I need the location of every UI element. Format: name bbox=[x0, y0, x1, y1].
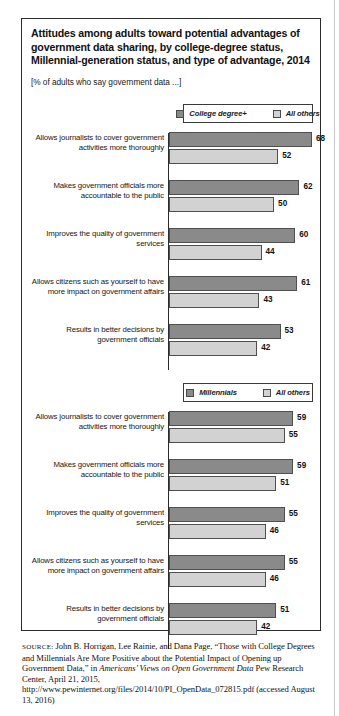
bar-series1 bbox=[169, 603, 276, 618]
figure-root: Attitudes among adults toward potential … bbox=[0, 0, 339, 716]
bar-value-series1: 68 bbox=[316, 134, 325, 143]
bar-value-series1: 55 bbox=[289, 509, 298, 518]
bar-pair: 53 42 bbox=[169, 324, 320, 360]
bar-value-series1: 53 bbox=[285, 326, 294, 335]
bar-value-series2: 51 bbox=[280, 478, 289, 487]
bar-value-series1: 60 bbox=[299, 230, 308, 239]
bar-value-series2: 44 bbox=[266, 247, 275, 256]
bar-value-series2: 46 bbox=[270, 574, 279, 583]
bar-row-series1: 55 bbox=[169, 555, 320, 570]
bar-row-series2: 51 bbox=[169, 476, 320, 491]
legend-item-millennials: Millennials bbox=[186, 388, 237, 397]
plot-area-1: Allows journalists to cover government a… bbox=[22, 131, 320, 372]
bar-row-series1: 68 bbox=[169, 132, 320, 147]
legend-label-series1: Millennials bbox=[199, 388, 237, 397]
legend-swatch-dark-icon bbox=[176, 110, 184, 118]
bar-group: Allows journalists to cover government a… bbox=[22, 410, 320, 448]
bar-value-series1: 59 bbox=[297, 413, 306, 422]
category-label: Allows citizens such as yourself to have… bbox=[26, 277, 164, 297]
bar-value-series2: 50 bbox=[278, 199, 287, 208]
bar-row-series1: 53 bbox=[169, 324, 320, 339]
bar-group: Makes government officials more accounta… bbox=[22, 179, 320, 217]
legend-swatch-dark-icon bbox=[186, 389, 194, 397]
chart-millennials: Allows journalists to cover government a… bbox=[22, 410, 320, 651]
source-label: SOURCE: bbox=[22, 643, 53, 651]
page-edge-line bbox=[334, 0, 335, 716]
category-label: Makes government officials more accounta… bbox=[26, 460, 164, 480]
bar-pair: 59 51 bbox=[169, 459, 320, 495]
plot-area-2: Allows journalists to cover government a… bbox=[22, 410, 320, 651]
category-label: Results in better decisions by governmen… bbox=[26, 325, 164, 345]
legend-chart-1: College degree+ All others bbox=[183, 104, 313, 123]
bar-series2 bbox=[169, 476, 276, 491]
bar-row-series1: 55 bbox=[169, 507, 320, 522]
legend-swatch-light-icon bbox=[273, 110, 281, 118]
category-label: Results in better decisions by governmen… bbox=[26, 604, 164, 624]
legend-label-series2: All others bbox=[286, 109, 320, 118]
bar-pair: 59 55 bbox=[169, 411, 320, 447]
legend-item-college-degree: College degree+ bbox=[176, 109, 246, 118]
bar-row-series2: 46 bbox=[169, 524, 320, 539]
legend-label-series1: College degree+ bbox=[189, 109, 246, 118]
bar-value-series2: 43 bbox=[263, 295, 272, 304]
bar-series2 bbox=[169, 620, 257, 635]
bar-value-series2: 55 bbox=[289, 430, 298, 439]
bar-row-series2: 52 bbox=[169, 149, 320, 164]
bar-series1 bbox=[169, 228, 295, 243]
bar-group: Improves the quality of government servi… bbox=[22, 227, 320, 265]
bar-row-series2: 46 bbox=[169, 572, 320, 587]
bar-series2 bbox=[169, 572, 266, 587]
bar-value-series1: 51 bbox=[280, 605, 289, 614]
bar-value-series1: 55 bbox=[289, 557, 298, 566]
legend-chart-2: Millennials All others bbox=[183, 383, 313, 402]
bar-value-series2: 46 bbox=[270, 526, 279, 535]
bar-pair: 55 46 bbox=[169, 555, 320, 591]
bar-series2 bbox=[169, 149, 278, 164]
bar-value-series2: 42 bbox=[261, 622, 270, 631]
category-label: Makes government officials more accounta… bbox=[26, 181, 164, 201]
bar-value-series2: 52 bbox=[282, 151, 291, 160]
bar-value-series1: 61 bbox=[301, 278, 310, 287]
bar-pair: 68 52 bbox=[169, 132, 320, 168]
bar-group: Results in better decisions by governmen… bbox=[22, 323, 320, 361]
category-label: Allows journalists to cover government a… bbox=[26, 133, 164, 153]
bar-series1 bbox=[169, 555, 285, 570]
bar-series1 bbox=[169, 459, 293, 474]
legend-swatch-light-icon bbox=[263, 389, 271, 397]
bar-pair: 51 42 bbox=[169, 603, 320, 639]
bar-series1 bbox=[169, 324, 281, 339]
bar-group: Results in better decisions by governmen… bbox=[22, 602, 320, 640]
category-label: Improves the quality of government servi… bbox=[26, 229, 164, 249]
chart-panel: Attitudes among adults toward potential … bbox=[21, 18, 321, 631]
bar-row-series2: 55 bbox=[169, 428, 320, 443]
bar-series2 bbox=[169, 524, 266, 539]
bar-series1 bbox=[169, 132, 312, 147]
bar-row-series2: 50 bbox=[169, 197, 320, 212]
bar-value-series1: 59 bbox=[297, 461, 306, 470]
figure-subtitle: [% of adults who say government data ...… bbox=[31, 68, 313, 88]
title-block: Attitudes among adults toward potential … bbox=[31, 27, 313, 88]
bar-series1 bbox=[169, 276, 297, 291]
legend-item-all-others: All others bbox=[263, 388, 310, 397]
bar-row-series1: 62 bbox=[169, 180, 320, 195]
bar-row-series1: 61 bbox=[169, 276, 320, 291]
bar-row-series1: 51 bbox=[169, 603, 320, 618]
bar-group: Allows citizens such as yourself to have… bbox=[22, 554, 320, 592]
bar-value-series1: 62 bbox=[303, 182, 312, 191]
bar-row-series1: 60 bbox=[169, 228, 320, 243]
bar-series2 bbox=[169, 341, 257, 356]
category-label: Allows journalists to cover government a… bbox=[26, 412, 164, 432]
bar-pair: 60 44 bbox=[169, 228, 320, 264]
bar-row-series1: 59 bbox=[169, 411, 320, 426]
bar-pair: 55 46 bbox=[169, 507, 320, 543]
legend-item-all-others: All others bbox=[273, 109, 320, 118]
bar-row-series2: 42 bbox=[169, 341, 320, 356]
bar-value-series2: 42 bbox=[261, 343, 270, 352]
bar-pair: 61 43 bbox=[169, 276, 320, 312]
legend-label-series2: All others bbox=[276, 388, 310, 397]
category-label: Allows citizens such as yourself to have… bbox=[26, 556, 164, 576]
source-note: SOURCE: John B. Horrigan, Lee Rainie, an… bbox=[22, 641, 319, 706]
bar-group: Makes government officials more accounta… bbox=[22, 458, 320, 496]
bar-series1 bbox=[169, 180, 299, 195]
source-publication-title: Americans’ Views on Open Government Data bbox=[99, 663, 253, 673]
